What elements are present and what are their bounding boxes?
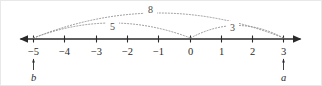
marker-group-a: a <box>281 59 286 83</box>
number-line-figure: 8 5 3 −5 −4 −3 −2 −1 0 1 2 3 b a <box>0 0 322 86</box>
tick-label--3: −3 <box>91 46 102 57</box>
arc-total <box>34 13 284 38</box>
tick-label-0: 0 <box>188 46 193 57</box>
arc-group <box>34 13 284 38</box>
marker-group-b: b <box>31 59 36 83</box>
arc-label-right: 3 <box>230 22 235 33</box>
tick-label-2: 2 <box>250 46 255 57</box>
arc-label-total: 8 <box>148 4 153 15</box>
tick-label-group: −5 −4 −3 −2 −1 0 1 2 3 <box>28 46 286 57</box>
tick-label-1: 1 <box>219 46 224 57</box>
tick-label--4: −4 <box>59 46 71 57</box>
tick-label--1: −1 <box>153 46 164 57</box>
marker-label-b: b <box>31 72 36 83</box>
number-line-diagram: 8 5 3 −5 −4 −3 −2 −1 0 1 2 3 b a <box>0 0 322 86</box>
arc-label-group: 8 5 3 <box>106 3 239 33</box>
arc-label-left: 5 <box>110 21 115 32</box>
tick-label-3: 3 <box>281 46 286 57</box>
tick-label--5: −5 <box>28 46 39 57</box>
tick-label--2: −2 <box>122 46 133 57</box>
marker-label-a: a <box>281 72 286 83</box>
